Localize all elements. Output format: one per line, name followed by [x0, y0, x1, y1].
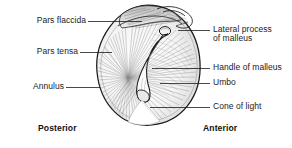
label-pars-flaccida: Pars flaccida: [4, 16, 86, 25]
orientation-label-posterior: Posterior: [38, 123, 77, 133]
label-cone-of-light: Cone of light: [213, 102, 261, 111]
orientation-label-anterior: Anterior: [203, 123, 237, 133]
label-handle-of-malleus: Handle of malleus: [213, 63, 282, 72]
figure-container: Pars flaccida Pars tensa Annulus Lateral…: [0, 0, 292, 148]
label-lateral-process-of-malleus: Lateral process of malleus: [213, 25, 272, 43]
label-umbo: Umbo: [213, 78, 236, 87]
label-lateral-process-line-2: of malleus: [213, 34, 272, 43]
label-pars-tensa: Pars tensa: [4, 47, 78, 56]
label-annulus: Annulus: [4, 82, 64, 91]
